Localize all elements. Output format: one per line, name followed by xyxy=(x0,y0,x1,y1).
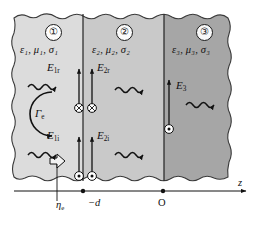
axis-tick-label-origin: O xyxy=(158,198,166,209)
physics-diagram-figure: ① ② ③ ε₁, μ₁, σ₁ ε₂, μ₂, σ₂ ε₃, μ₃, σ₃ E… xyxy=(0,0,260,225)
field-symbol-E1i: E xyxy=(47,129,54,141)
marker-into-page-E1r xyxy=(75,104,84,113)
region-3-parameters: ε₃, μ₃, σ₃ xyxy=(172,45,210,56)
field-symbol-E2r: E xyxy=(97,61,104,73)
field-subscript-E1r: 1r xyxy=(54,67,60,75)
region-2-parameters: ε₂, μ₂, σ₂ xyxy=(92,45,130,56)
field-label-E1i: E1i xyxy=(47,130,59,141)
intrinsic-impedance-label: ηe xyxy=(56,200,64,211)
marker-into-page-E2r xyxy=(88,104,97,113)
z-axis-label: z xyxy=(238,178,242,189)
field-subscript-E3: 3 xyxy=(183,85,187,93)
field-label-E2i: E2i xyxy=(97,130,109,141)
z-tick-origin xyxy=(161,189,165,193)
field-subscript-E2r: 2r xyxy=(104,67,110,75)
reflection-coefficient-label: Γe xyxy=(35,108,44,119)
field-label-E2r: E2r xyxy=(97,62,110,73)
region-2-number-badge: ② xyxy=(116,24,133,41)
marker-out-of-page-E1i xyxy=(75,172,84,181)
field-symbol-E3: E xyxy=(176,79,183,91)
marker-out-of-page-E2i xyxy=(88,172,97,181)
axis-tick-label-minus-d: −d xyxy=(88,198,100,209)
region-3-number-badge: ③ xyxy=(196,24,213,41)
field-subscript-E1i: 1i xyxy=(54,135,60,143)
eta-subscript: e xyxy=(61,204,64,211)
field-symbol-E2i: E xyxy=(97,129,104,141)
field-label-E1r: E1r xyxy=(47,62,60,73)
field-subscript-E2i: 2i xyxy=(104,135,110,143)
region-1-parameters: ε₁, μ₁, σ₁ xyxy=(20,45,58,56)
z-tick-minus-d xyxy=(81,189,85,193)
field-symbol-E1r: E xyxy=(47,61,54,73)
region-1-number-badge: ① xyxy=(45,24,62,41)
field-label-E3: E3 xyxy=(176,80,186,91)
marker-out-of-page-E3 xyxy=(165,125,174,134)
